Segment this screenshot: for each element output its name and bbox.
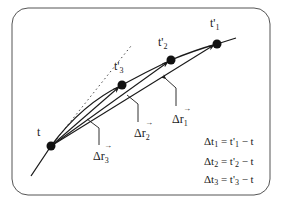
point-t1-prime [213,40,222,49]
label-t2-prime: t'2 [158,35,168,51]
point-t3-prime [118,81,127,90]
equation-dt2: Δt2 = t'2 − t [204,155,254,169]
displacement-diagram: t t'3 t'2 t'1 Δr1 → Δr2 → Δr3 → Δt1 = t'… [0,0,281,205]
equation-dt3: Δt3 = t'3 − t [204,173,254,187]
point-t [47,142,56,151]
point-t2-prime [167,56,176,65]
svg-text:Δr1: Δr1 [172,112,188,128]
label-dr1: Δr1 → [172,104,191,128]
vector-dr3 [51,87,119,146]
vector-dr2 [51,62,168,146]
label-t1-prime: t'1 [210,16,220,32]
label-t: t [37,125,41,139]
vector-arrow-icon: → [145,118,153,127]
vector-arrow-icon: → [183,104,191,113]
label-dr2: Δr2 → [134,118,153,142]
leader-dr1 [166,79,176,106]
svg-text:Δr3: Δr3 [93,149,109,165]
label-dr3: Δr3 → [93,141,112,165]
leader-dr2 [127,95,138,122]
equation-dt1: Δt1 = t'1 − t [204,135,254,149]
label-t3-prime: t'3 [114,59,124,75]
svg-text:Δr2: Δr2 [134,126,150,142]
vector-dr1 [51,45,214,146]
vector-arrow-icon: → [104,141,112,150]
